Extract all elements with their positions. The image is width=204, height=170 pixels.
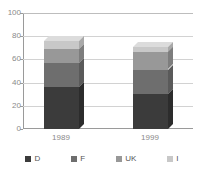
y-tick-label-40: 40 [1, 79, 21, 87]
legend-label-i: I [176, 155, 178, 163]
bar-1989-segment-UK[interactable] [44, 49, 79, 63]
y-tick-label-100: 100 [1, 9, 21, 17]
y-tick-label-0: 0 [1, 125, 21, 133]
bar-1989[interactable] [44, 41, 79, 129]
y-tick-label-60: 60 [1, 55, 21, 63]
bar-1999-segment-F[interactable] [133, 70, 168, 94]
gridline-100 [23, 13, 193, 14]
y-tick-mark-100 [20, 13, 23, 14]
legend-label-d: D [34, 155, 40, 163]
plot-area [23, 13, 193, 129]
x-tick-label-1999: 1999 [120, 133, 180, 142]
legend-swatch-f-icon [71, 156, 77, 162]
y-tick-label-20: 20 [1, 102, 21, 110]
y-tick-mark-0 [20, 129, 23, 130]
x-tick-label-1989: 1989 [31, 133, 91, 142]
legend-swatch-uk-icon [116, 156, 122, 162]
legend-item-f[interactable]: F [71, 155, 85, 163]
y-tick-mark-40 [20, 83, 23, 84]
y-tick-label-80: 80 [1, 32, 21, 40]
legend-item-uk[interactable]: UK [116, 155, 136, 163]
y-tick-mark-60 [20, 59, 23, 60]
legend-swatch-i-icon [167, 156, 173, 162]
y-axis: 100 80 60 40 20 0 [0, 13, 21, 129]
legend-label-f: F [80, 155, 85, 163]
y-tick-mark-20 [20, 106, 23, 107]
bar-1999-segment-D[interactable] [133, 94, 168, 129]
legend-label-uk: UK [125, 155, 136, 163]
chart-legend: D F UK I [0, 152, 204, 166]
bar-1999-segment-UK[interactable] [133, 52, 168, 69]
y-tick-mark-80 [20, 36, 23, 37]
bar-1989-segment-D[interactable] [44, 87, 79, 129]
legend-item-d[interactable]: D [25, 155, 40, 163]
bar-1999-segment-D-side [168, 89, 173, 129]
legend-swatch-d-icon [25, 156, 31, 162]
bar-1989-segment-D-side [79, 82, 84, 129]
legend-item-i[interactable]: I [167, 155, 178, 163]
bar-1989-segment-F[interactable] [44, 63, 79, 87]
bar-1999[interactable] [133, 47, 168, 129]
stacked-bar-chart: 100 80 60 40 20 0 [0, 0, 204, 170]
bar-1989-segment-I[interactable] [44, 41, 79, 49]
